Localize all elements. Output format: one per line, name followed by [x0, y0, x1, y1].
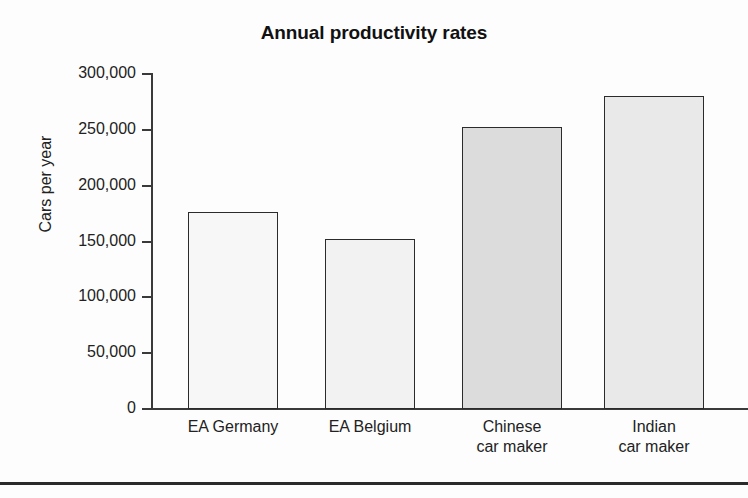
y-tick-mark	[142, 73, 152, 75]
y-tick-mark	[142, 129, 152, 131]
y-tick-mark	[142, 408, 152, 410]
bottom-divider	[0, 482, 748, 485]
x-tick-label: Chinese car maker	[432, 417, 592, 457]
y-tick-mark	[142, 241, 152, 243]
chart-title: Annual productivity rates	[0, 22, 748, 44]
y-tick-mark	[142, 352, 152, 354]
y-axis-title: Cars per year	[37, 94, 55, 274]
x-tick-label: Indian car maker	[574, 417, 734, 457]
plot-area	[152, 74, 730, 409]
bar	[188, 212, 278, 409]
y-tick-label: 250,000	[78, 121, 136, 137]
y-tick-mark	[142, 296, 152, 298]
chart-figure: Annual productivity rates Cars per year …	[0, 0, 748, 498]
bar	[604, 96, 704, 409]
bar	[462, 127, 562, 409]
y-tick-mark	[142, 185, 152, 187]
y-tick-label: 150,000	[78, 233, 136, 249]
y-tick-label: 200,000	[78, 177, 136, 193]
y-tick-label: 0	[127, 400, 136, 416]
x-tick-label: EA Germany	[153, 417, 313, 437]
y-tick-label: 300,000	[78, 65, 136, 81]
y-tick-label: 50,000	[87, 344, 136, 360]
bar	[325, 239, 415, 409]
x-tick-label: EA Belgium	[290, 417, 450, 437]
y-tick-label: 100,000	[78, 288, 136, 304]
